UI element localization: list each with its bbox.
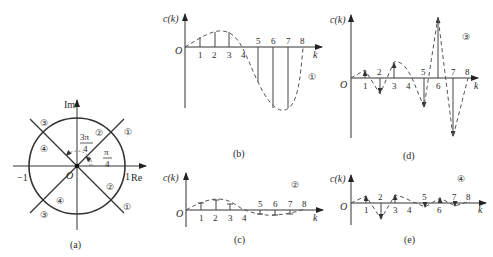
marker-1-upper: ① [124, 127, 132, 137]
caption-c: (c) [234, 234, 245, 246]
svg-text:4: 4 [406, 81, 411, 91]
svg-text:5: 5 [422, 192, 427, 202]
real-axis-label: Re [131, 172, 143, 183]
svg-text:6: 6 [436, 81, 441, 91]
panel-e-ylabel: c(k) [330, 173, 346, 185]
svg-text:3: 3 [393, 205, 398, 215]
panel-b-plot: c(k) O k 1 2 3 4 5 6 7 8 ① (b) [163, 13, 322, 160]
panel-d-ylabel: c(k) [330, 14, 346, 26]
svg-text:7: 7 [451, 67, 456, 77]
plus-one-label: 1 [125, 171, 130, 182]
svg-text:8: 8 [465, 67, 470, 77]
svg-text:8: 8 [300, 36, 305, 46]
svg-text:8: 8 [466, 192, 471, 202]
panel-b-tick-labels: 1 2 3 4 5 6 7 8 [198, 36, 305, 60]
panel-d-plot: c(k) O k 1 2 3 4 5 6 7 8 ③ (d) [330, 14, 479, 162]
panel-c-plot: c(k) O k 1 2 3 4 5 6 7 8 ② (c) [163, 172, 323, 246]
panel-e-xlabel: k [478, 204, 483, 215]
marker-3-upper: ③ [40, 118, 48, 128]
panel-d-xlabel: k [474, 80, 479, 91]
marker-2-upper: ② [95, 128, 103, 138]
caption-e: (e) [404, 234, 415, 246]
svg-text:2: 2 [213, 213, 218, 223]
svg-text:6: 6 [271, 36, 276, 46]
svg-text:5: 5 [256, 36, 261, 46]
svg-text:3: 3 [228, 213, 233, 223]
svg-text:7: 7 [288, 199, 293, 209]
svg-text:2: 2 [212, 50, 217, 60]
panel-e-plot: c(k) O k 1 2 3 4 5 6 7 8 ④ (e) [330, 173, 486, 246]
marker-1-lower: ① [123, 202, 131, 212]
panel-d-tick-labels: 1 2 3 4 5 6 7 8 [363, 67, 470, 91]
svg-text:1: 1 [198, 50, 203, 60]
panel-d-envelope [351, 17, 468, 137]
caption-a: (a) [70, 239, 81, 251]
panel-d-stems [365, 18, 453, 136]
origin-point [75, 164, 80, 169]
panel-c-ylabel: c(k) [163, 172, 179, 184]
svg-text:2: 2 [377, 67, 382, 77]
panel-c-tick-labels: 1 2 3 4 5 6 7 8 [199, 199, 307, 223]
svg-text:1: 1 [364, 205, 369, 215]
marker-4-upper: ④ [40, 144, 48, 154]
panel-c-xlabel: k [313, 212, 318, 223]
figure-canvas: Im Re −1 1 O 3π 4 π 4 ① ② ③ ④ ① ② ③ ④ (a… [0, 0, 493, 257]
svg-text:4: 4 [241, 50, 246, 60]
svg-text:5: 5 [421, 67, 426, 77]
angle-pi4-numerator: π [104, 147, 109, 157]
angle-3pi4-numerator: 3π [80, 132, 90, 142]
panel-a-z-plane: Im Re −1 1 O 3π 4 π 4 ① ② ③ ④ ① ② ③ ④ (a… [13, 99, 146, 251]
caption-d: (d) [403, 150, 415, 162]
marker-4-lower: ④ [56, 196, 64, 206]
panel-b-origin: O [175, 45, 182, 56]
svg-text:2: 2 [378, 192, 383, 202]
origin-label: O [66, 170, 73, 181]
marker-3-lower: ③ [40, 210, 48, 220]
imag-axis-label: Im [64, 99, 75, 110]
svg-text:3: 3 [392, 81, 397, 91]
panel-b-xlabel: k [313, 49, 318, 60]
panel-e-origin: O [340, 201, 347, 212]
marker-2-lower: ② [106, 182, 114, 192]
angle-3pi4-denominator: 4 [83, 144, 88, 154]
svg-text:4: 4 [242, 213, 247, 223]
caption-b: (b) [233, 148, 245, 160]
panel-c-origin: O [176, 208, 183, 219]
svg-text:1: 1 [199, 213, 204, 223]
svg-text:3: 3 [227, 50, 232, 60]
panel-e-marker: ④ [457, 174, 465, 184]
svg-text:8: 8 [302, 199, 307, 209]
svg-text:7: 7 [286, 36, 291, 46]
angle-pi4-denominator: 4 [105, 159, 110, 169]
panel-d-origin: O [340, 79, 347, 90]
svg-text:6: 6 [273, 199, 278, 209]
svg-text:6: 6 [437, 205, 442, 215]
svg-text:1: 1 [363, 81, 368, 91]
panel-c-marker: ② [291, 180, 299, 190]
panel-b-ylabel: c(k) [163, 13, 179, 25]
minus-one-label: −1 [17, 172, 28, 183]
panel-b-marker: ① [308, 72, 316, 82]
panel-d-marker: ③ [462, 32, 470, 42]
svg-text:7: 7 [452, 192, 457, 202]
svg-text:5: 5 [258, 199, 263, 209]
svg-text:4: 4 [407, 205, 412, 215]
